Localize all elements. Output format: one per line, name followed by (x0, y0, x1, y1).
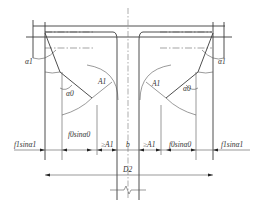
overall-dimension: D2 (45, 165, 213, 177)
dim-f0sin-right: f0sinα0 (169, 140, 192, 149)
dim-f1sin-right: f1sinα1 (221, 140, 243, 149)
A1-left-label: A1 (97, 77, 106, 86)
dimension-row: f1sinα1 f0sinα0 ≥A1 b ≥A1 f0sinα0 f1sinα… (14, 130, 250, 152)
D2-label: D2 (122, 165, 132, 174)
dim-b: b (126, 140, 130, 149)
alpha1-right-label: α1 (218, 57, 226, 66)
dim-f1sin-left: f1sinα1 (14, 140, 36, 149)
A1-right-label: A1 (151, 79, 160, 88)
alpha0-left-label: α0 (66, 89, 74, 98)
alpha1-left-label: α1 (25, 57, 33, 66)
alpha0-right-label: α0 (183, 84, 191, 93)
dim-gap-right: ≥A1 (143, 140, 155, 149)
dim-f0sin-left: f0sinα0 (68, 130, 91, 139)
cross-section-diagram: α1 α0 A1 α1 α0 A1 f1sinα1 f0sinα0 ≥A1 b (0, 0, 256, 203)
dim-gap-left: ≥A1 (101, 140, 113, 149)
